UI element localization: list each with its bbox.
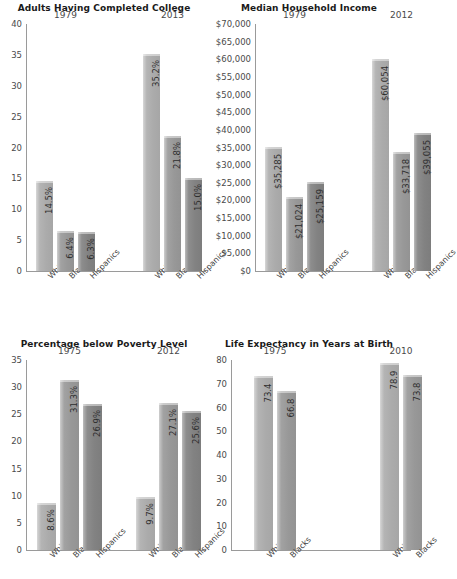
bar-blacks-1979: 6.4% xyxy=(57,231,74,271)
bar-whites-2013: 35.2% xyxy=(143,54,160,271)
bar-value-label: 26.9% xyxy=(93,410,102,437)
y-axis-tick-label: 20 xyxy=(11,143,22,152)
bar-whites-1979: $35,285 xyxy=(265,147,282,272)
y-axis-tick-label: 25 xyxy=(11,112,22,121)
bar-highlight xyxy=(277,391,296,393)
y-axis-tick-label: $45,000 xyxy=(216,108,251,117)
y-axis-tick-label: 5 xyxy=(17,519,22,528)
y-axis-tick-label: $0 xyxy=(240,267,251,276)
y-axis-tick-label: 30 xyxy=(216,475,227,484)
bar-value-label: 35.2% xyxy=(152,60,161,87)
y-axis-tick-label: 15 xyxy=(11,464,22,473)
chart-panel-adults-completed-college: Adults Having Completed College051015202… xyxy=(0,0,208,310)
bar-value-label: 73.8 xyxy=(413,382,422,401)
group-label-2010: 2010 xyxy=(390,346,413,356)
chart-title: Life Expectancy in Years at Birth xyxy=(205,338,413,351)
bars-container: 14.5%Whites6.4%Blacks6.3%Hispanics197935… xyxy=(27,24,206,271)
y-axis-tick-label: $70,000 xyxy=(216,20,251,29)
y-axis-tick-label: 80 xyxy=(216,356,227,365)
bar-highlight xyxy=(372,59,389,61)
group-label-1979: 1979 xyxy=(283,10,306,20)
bar-value-label: 6.3% xyxy=(87,238,96,260)
y-axis-tick-label: $35,000 xyxy=(216,143,251,152)
y-axis: $0$5,000$10,000$15,000$20,000$25,000$30,… xyxy=(205,24,255,271)
bar-whites-2012: 9.7% xyxy=(136,497,155,550)
bar-hispanics-2012: 25.6% xyxy=(182,411,201,550)
bar-whites-1979: 14.5% xyxy=(36,181,53,271)
chart-panel-percentage-below-poverty-level: Percentage below Poverty Level0510152025… xyxy=(0,330,208,579)
bar-highlight xyxy=(182,411,201,413)
y-axis-tick-label: 40 xyxy=(216,451,227,460)
bar-highlight xyxy=(393,152,410,154)
bar-highlight xyxy=(265,147,282,149)
bar-value-label: 73.4 xyxy=(264,383,273,402)
bar-highlight xyxy=(286,197,303,199)
y-axis-tick-label: $5,000 xyxy=(221,249,251,258)
y-axis-tick-label: 5 xyxy=(17,236,22,245)
plot-area: $0$5,000$10,000$15,000$20,000$25,000$30,… xyxy=(205,24,413,271)
bar-highlight xyxy=(307,182,324,184)
y-axis-tick-label: $30,000 xyxy=(216,161,251,170)
bar-highlight xyxy=(414,133,431,135)
bar-highlight xyxy=(403,375,422,377)
group-label-2012: 2012 xyxy=(157,346,180,356)
y-axis-tick-label: 60 xyxy=(216,403,227,412)
chart-panel-life-expectancy: Life Expectancy in Years at Birth0102030… xyxy=(205,330,413,579)
bar-value-label: 78.9 xyxy=(390,370,399,389)
bar-value-label: 6.4% xyxy=(66,238,75,260)
y-axis: 05101520253035 xyxy=(0,360,26,550)
group-label-2013: 2013 xyxy=(161,10,184,20)
bar-whites-1975: 8.6% xyxy=(37,503,56,550)
bar-highlight xyxy=(78,232,95,234)
y-axis-tick-label: $20,000 xyxy=(216,196,251,205)
bar-highlight xyxy=(36,181,53,183)
bar-highlight xyxy=(164,136,181,138)
bar-whites-2010: 78.9 xyxy=(380,363,399,550)
bar-blacks-1979: $21,024 xyxy=(286,197,303,271)
y-axis-tick-label: 10 xyxy=(11,491,22,500)
y-axis-tick-label: 35 xyxy=(11,51,22,60)
plot-area: 051015202530358.6%Whites31.3%Blacks26.9%… xyxy=(0,360,208,550)
bar-highlight xyxy=(185,178,202,180)
y-axis-tick-label: $60,000 xyxy=(216,55,251,64)
y-axis-tick-label: 70 xyxy=(216,380,227,389)
bar-value-label: 31.3% xyxy=(70,386,79,413)
bar-blacks-2010: 73.8 xyxy=(403,375,422,550)
bar-highlight xyxy=(60,380,79,382)
bar-value-label: 27.1% xyxy=(169,409,178,436)
bar-value-label: 15.0% xyxy=(194,184,203,211)
group-label-1975: 1975 xyxy=(264,346,287,356)
y-axis-tick-label: 0 xyxy=(17,546,22,555)
y-axis-tick-label: 0 xyxy=(17,267,22,276)
group-label-1975: 1975 xyxy=(58,346,81,356)
bar-highlight xyxy=(380,363,399,365)
bar-hispanics-1975: 26.9% xyxy=(83,404,102,550)
plot-area: 0102030405060708073.4Whites66.8Blacks197… xyxy=(205,360,413,550)
group-label-2012: 2012 xyxy=(390,10,413,20)
bar-whites-1975: 73.4 xyxy=(254,376,273,550)
y-axis-tick-label: $50,000 xyxy=(216,90,251,99)
y-axis-tick-label: 10 xyxy=(216,522,227,531)
bar-blacks-2012: 27.1% xyxy=(159,403,178,550)
y-axis: 0510152025303540 xyxy=(0,24,26,271)
y-axis-tick-label: $40,000 xyxy=(216,126,251,135)
y-axis-tick-label: 20 xyxy=(216,498,227,507)
bar-highlight xyxy=(143,54,160,56)
bar-highlight xyxy=(136,497,155,499)
y-axis-tick-label: 0 xyxy=(222,546,227,555)
y-axis-tick-label: 15 xyxy=(11,174,22,183)
bar-highlight xyxy=(37,503,56,505)
bars-container: $35,285Whites$21,024Blacks$25,159Hispani… xyxy=(256,24,411,271)
bar-blacks-2012: $33,718 xyxy=(393,152,410,271)
bar-value-label: $60,054 xyxy=(381,66,390,101)
bar-hispanics-2013: 15.0% xyxy=(185,178,202,271)
bar-whites-2012: $60,054 xyxy=(372,59,389,271)
chart-panel-median-household-income: Median Household Income$0$5,000$10,000$1… xyxy=(205,0,413,310)
bars-container: 8.6%Whites31.3%Blacks26.9%Hispanics19759… xyxy=(27,360,206,550)
y-axis-tick-label: 10 xyxy=(11,205,22,214)
bar-highlight xyxy=(57,231,74,233)
bar-value-label: 9.7% xyxy=(146,504,155,526)
y-axis-tick-label: $25,000 xyxy=(216,179,251,188)
y-axis-tick-label: 35 xyxy=(11,356,22,365)
